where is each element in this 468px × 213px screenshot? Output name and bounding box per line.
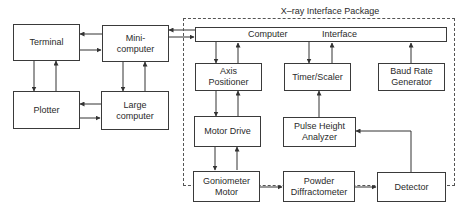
terminal-label: Terminal <box>29 37 63 48</box>
goniometer-label-2: Motor <box>215 187 238 198</box>
motor-drive-block: Motor Drive <box>194 116 261 147</box>
plotter-label: Plotter <box>33 105 59 116</box>
motor-drive-label: Motor Drive <box>204 126 251 137</box>
plotter-block: Plotter <box>13 91 80 129</box>
baud-rate-label-2: Generator <box>391 77 432 88</box>
computer-interface-block: Computer Interface <box>195 27 447 42</box>
baud-rate-generator-block: Baud Rate Generator <box>378 63 445 91</box>
baud-rate-label-1: Baud Rate <box>390 66 433 77</box>
xray-interface-package-boundary <box>183 18 455 186</box>
large-computer-label-2: computer <box>116 111 154 122</box>
terminal-block: Terminal <box>13 24 80 61</box>
detector-block: Detector <box>377 172 446 202</box>
interface-label-left: Computer <box>248 29 288 39</box>
large-computer-block: Large computer <box>101 91 169 130</box>
minicomputer-label-1: Mini- <box>126 33 146 44</box>
large-computer-label-1: Large <box>123 100 146 111</box>
timer-scaler-label: Timer/Scaler <box>292 72 343 83</box>
goniometer-label-1: Goniometer <box>203 176 250 187</box>
minicomputer-label-2: computer <box>117 44 155 55</box>
package-label: X–ray Interface Package <box>260 6 400 16</box>
minicomputer-block: Mini- computer <box>102 25 169 62</box>
pulse-height-label-2: Analyzer <box>302 132 337 143</box>
pulse-height-label-1: Pulse Height <box>294 121 345 132</box>
powder-label-1: Powder <box>304 176 335 187</box>
axis-positioner-block: Axis Positioner <box>195 63 262 91</box>
goniometer-motor-block: Goniometer Motor <box>193 171 260 202</box>
axis-positioner-label-2: Positioner <box>208 77 248 88</box>
powder-diffractometer-block: Powder Diffractometer <box>283 171 355 202</box>
detector-label: Detector <box>394 182 428 193</box>
pulse-height-analyzer-block: Pulse Height Analyzer <box>283 117 356 147</box>
interface-label-right: Interface <box>322 29 357 39</box>
powder-label-2: Diffractometer <box>291 187 347 198</box>
timer-scaler-block: Timer/Scaler <box>284 63 351 91</box>
axis-positioner-label-1: Axis <box>220 66 237 77</box>
